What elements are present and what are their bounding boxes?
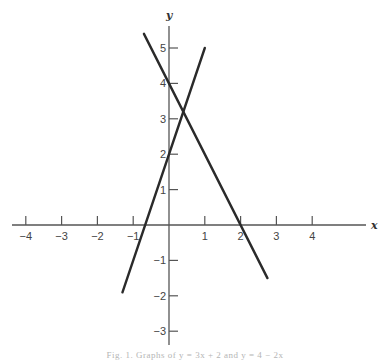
coordinate-plane: −4−3−2−1123454321−1−2−3 x y [0,0,390,362]
x-tick-label: −3 [55,230,68,242]
y-tick-label: −3 [153,325,166,337]
y-tick-label: 4 [160,77,166,89]
x-tick-label: 4 [309,230,315,242]
plotted-lines [122,34,267,292]
y-axis-label: y [165,9,174,22]
y-tick-label: 3 [160,113,166,125]
figure-caption: Fig. 1. Graphs of y = 3x + 2 and y = 4 −… [0,350,390,360]
y-tick-label: −2 [153,290,166,302]
x-tick-label: 3 [273,230,279,242]
y-tick-label: 5 [160,42,166,54]
y-tick-label: 2 [160,148,166,160]
y-tick-label: −1 [153,254,166,266]
x-tick-label: −1 [127,230,140,242]
x-tick-label: 1 [202,230,208,242]
axes [12,26,366,345]
x-axis-label: x [370,219,378,232]
ticks: −4−3−2−1123454321−1−2−3 [20,42,316,337]
x-tick-label: −2 [91,230,104,242]
y-tick-label: 1 [160,184,166,196]
x-tick-label: −4 [20,230,33,242]
